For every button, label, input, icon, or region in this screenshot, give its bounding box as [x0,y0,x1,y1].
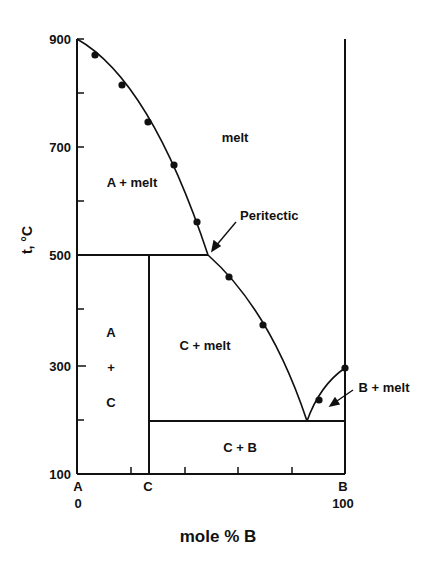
x-ticks [131,467,292,474]
region-a-c-plus: + [107,360,115,375]
region-c-melt: C + melt [180,338,232,353]
y-axis-title: t, °C [19,226,35,254]
y-tick-900: 900 [49,32,71,47]
x-label-0: 0 [74,496,81,511]
liquidus-a-curve [77,39,208,255]
peritectic-arrow [215,222,236,247]
y-tick-100: 100 [49,467,71,482]
y-ticks [77,39,86,420]
region-b-melt: B + melt [359,380,411,395]
y-tick-300: 300 [49,359,71,374]
region-a-melt: A + melt [107,175,158,190]
x-axis-title: mole % B [180,527,257,546]
liquidus-curves [77,39,345,421]
liquidus-b-curve [307,368,345,421]
region-a-c-bottom: C [106,395,116,410]
phase-diagram: 900 700 500 300 100 A 0 C B 100 mole % B… [0,0,436,569]
x-label-c: C [143,479,153,494]
y-tick-500: 500 [49,248,71,263]
region-a-c-top: A [106,325,116,340]
x-label-a: A [73,479,83,494]
x-label-100: 100 [332,496,354,511]
axes [77,39,345,474]
x-label-b: B [338,479,347,494]
region-melt: melt [222,130,249,145]
peritectic-label: Peritectic [240,208,299,223]
y-tick-700: 700 [49,140,71,155]
region-c-b: C + B [223,440,257,455]
